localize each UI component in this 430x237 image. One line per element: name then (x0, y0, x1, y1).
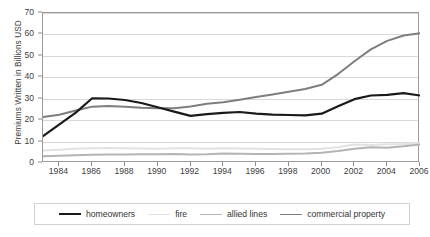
legend-label: homeowners (86, 209, 135, 219)
series-line-allied-lines (43, 145, 420, 157)
plot-area (42, 12, 419, 162)
legend-item-allied-lines[interactable]: allied lines (200, 209, 267, 219)
legend-item-homeowners[interactable]: homeowners (59, 209, 135, 219)
series-lines (43, 13, 420, 163)
y-axis-tick-label: 10 (0, 136, 34, 146)
y-axis-tick-label: 70 (0, 7, 34, 17)
legend-swatch-icon (148, 214, 170, 215)
legend-item-commercial-property[interactable]: commercial property (280, 209, 385, 219)
y-axis-tick-label: 0 (0, 157, 34, 167)
y-axis-tick-label: 40 (0, 71, 34, 81)
x-axis-tick-labels: 1984198619881990199219941996199820002002… (42, 166, 419, 180)
x-axis-tick-label: 2006 (399, 166, 430, 176)
legend-label: commercial property (307, 209, 385, 219)
chart-legend: homeownersfireallied linescommercial pro… (34, 203, 410, 225)
chart-container: Premiums Written in Billions USD 0102030… (0, 0, 430, 237)
legend-swatch-icon (280, 214, 302, 215)
y-axis-tick-label: 60 (0, 28, 34, 38)
y-axis-tick-labels: 010203040506070 (0, 12, 38, 162)
y-axis-tick-label: 50 (0, 50, 34, 60)
legend-swatch-icon (59, 213, 81, 215)
legend-label: allied lines (227, 209, 267, 219)
series-line-homeowners (43, 93, 420, 136)
y-axis-tick-label: 20 (0, 114, 34, 124)
series-line-fire (43, 143, 420, 151)
y-axis-tick-label: 30 (0, 93, 34, 103)
legend-item-fire[interactable]: fire (148, 209, 187, 219)
series-line-commercial-property (43, 33, 420, 117)
legend-label: fire (175, 209, 187, 219)
legend-swatch-icon (200, 214, 222, 215)
